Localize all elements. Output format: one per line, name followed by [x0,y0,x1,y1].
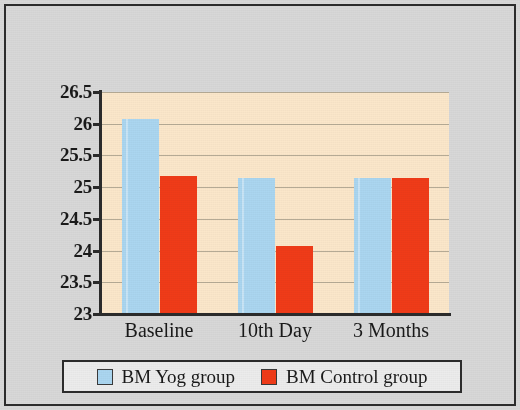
x-axis-tick-label: Baseline [101,319,217,341]
y-axis-tick-mark [93,186,101,189]
legend-swatch-yog-icon [97,369,113,385]
y-axis-tick-mark [93,91,101,94]
bar-yog-0 [122,119,159,314]
y-axis-tick-label: 25 [6,177,92,196]
y-axis-tick-label: 24.5 [6,209,92,228]
bars-layer [101,92,449,314]
y-axis-tick-label: 23 [6,304,92,323]
legend-label-yog: BM Yog group [122,367,236,386]
y-axis-tick-mark [93,313,101,316]
y-axis-tick-labels: 2323.52424.52525.52626.5 [0,0,92,410]
legend-entry-yog[interactable]: BM Yog group [97,367,236,386]
legend-entry-control[interactable]: BM Control group [261,367,427,386]
legend-swatch-control-icon [261,369,277,385]
x-axis-tick-label: 10th Day [217,319,333,341]
y-axis-tick-label: 24 [6,241,92,260]
chart-legend: BM Yog group BM Control group [62,360,462,393]
bar-yog-1 [238,178,275,314]
bar-control-0 [160,176,197,314]
legend-label-control: BM Control group [286,367,427,386]
y-axis-tick-label: 26.5 [6,82,92,101]
bar-yog-2 [354,178,391,314]
y-axis-tick-mark [93,123,101,126]
y-axis-tick-mark [93,218,101,221]
y-axis-tick-mark [93,281,101,284]
y-axis-tick-mark [93,154,101,157]
chart-figure: 2323.52424.52525.52626.5 Baseline10th Da… [0,0,520,410]
bar-control-2 [392,178,429,314]
x-axis-line [99,313,451,316]
x-axis-tick-labels: Baseline10th Day3 Months [101,319,449,349]
y-axis-tick-label: 26 [6,114,92,133]
y-axis-tick-label: 25.5 [6,145,92,164]
bar-control-1 [276,246,313,314]
x-axis-tick-label: 3 Months [333,319,449,341]
y-axis-tick-label: 23.5 [6,272,92,291]
y-axis-tick-mark [93,250,101,253]
